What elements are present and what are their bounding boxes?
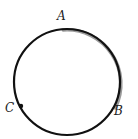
circle-diagram: A B C bbox=[0, 0, 138, 139]
label-a: A bbox=[56, 9, 66, 23]
highlighted-arc-ab bbox=[63, 30, 121, 108]
main-circle bbox=[14, 29, 120, 135]
label-c: C bbox=[5, 101, 14, 115]
label-b: B bbox=[113, 104, 123, 118]
point-c-dot bbox=[19, 104, 23, 108]
